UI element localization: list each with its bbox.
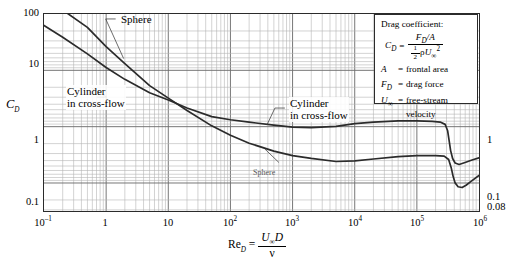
- annotation-cylinder-mid-line1: Cylinder: [290, 97, 348, 109]
- legend-equation-lhs: CD: [385, 40, 396, 54]
- y-tick-label-0.1: 0.1: [8, 196, 39, 207]
- legend-def-drag-force-text: drag force: [406, 79, 444, 91]
- y-axis-title-subscript: D: [14, 106, 19, 114]
- x-axis-title-numerator: U∞D: [258, 231, 286, 246]
- y-axis-title: CD: [6, 97, 20, 114]
- annotation-cylinder-mid: Cylinder in cross-flow: [289, 97, 349, 122]
- legend-def-area-text: frontal area: [406, 64, 448, 76]
- x-axis-title-equals: =: [249, 238, 256, 250]
- annotation-cylinder-left-line2: in cross-flow: [67, 97, 125, 109]
- y-tick-label-1: 1: [8, 134, 39, 145]
- legend-definitions: A = frontal area FD = drag force U∞ = fr…: [381, 64, 472, 120]
- annotation-sphere-top: Sphere: [121, 13, 152, 25]
- x-axis-title-fraction: U∞D ν: [258, 231, 286, 260]
- annotation-sphere-top-text: Sphere: [121, 13, 152, 25]
- y-tick-label-10: 10: [8, 58, 39, 69]
- legend-def-free-stream-text2: velocity: [406, 109, 472, 121]
- x-tick-label-3: 102: [215, 215, 245, 228]
- x-axis-title-denominator: ν: [258, 246, 286, 260]
- annotation-cylinder-left: Cylinder in cross-flow: [66, 85, 126, 110]
- legend-def-free-stream-text: free-stream: [406, 95, 448, 107]
- grid-vertical-major: [106, 14, 417, 211]
- legend-equation: CD = FD/A 1 2 ρU∞2: [385, 32, 472, 63]
- legend-equation-denominator: 1 2 ρU∞2: [408, 44, 443, 62]
- x-tick-label-0: 10–1: [28, 215, 58, 228]
- legend-equation-equals: =: [399, 41, 404, 53]
- legend-def-free-stream: U∞ = free-stream: [381, 95, 472, 109]
- x-axis-title: ReD = U∞D ν: [228, 231, 286, 260]
- legend-header: Drag coefficient:: [381, 19, 472, 31]
- annotation-sphere-mid: Sphere: [253, 169, 275, 178]
- annotation-sphere-mid-text: Sphere: [253, 168, 275, 177]
- drag-coefficient-legend-box: Drag coefficient: CD = FD/A 1 2 ρU∞2 A =…: [374, 14, 478, 104]
- x-tick-label-7: 106: [465, 215, 495, 228]
- y-right-tick-label-1: 1: [487, 134, 492, 145]
- x-tick-label-5: 104: [340, 215, 370, 228]
- y-tick-label-100: 100: [8, 7, 39, 18]
- annotation-cylinder-left-line1: Cylinder: [67, 85, 125, 97]
- x-axis-title-sub: D: [241, 246, 246, 254]
- x-tick-label-6: 105: [402, 215, 432, 228]
- x-axis-title-re: Re: [228, 238, 241, 250]
- x-tick-label-1: 1: [90, 215, 120, 228]
- x-tick-label-4: 103: [277, 215, 307, 228]
- y-right-tick-label-0.08: 0.08: [487, 201, 505, 212]
- legend-equation-fraction: FD/A 1 2 ρU∞2: [408, 32, 443, 63]
- x-tick-label-2: 10: [153, 215, 183, 228]
- legend-def-drag-force: FD = drag force: [381, 79, 472, 93]
- legend-def-area: A = frontal area: [381, 64, 472, 78]
- legend-equation-numerator: FD/A: [408, 32, 443, 45]
- annotation-cylinder-mid-line2: in cross-flow: [290, 109, 348, 121]
- legend-one-half: 1 2: [411, 45, 421, 62]
